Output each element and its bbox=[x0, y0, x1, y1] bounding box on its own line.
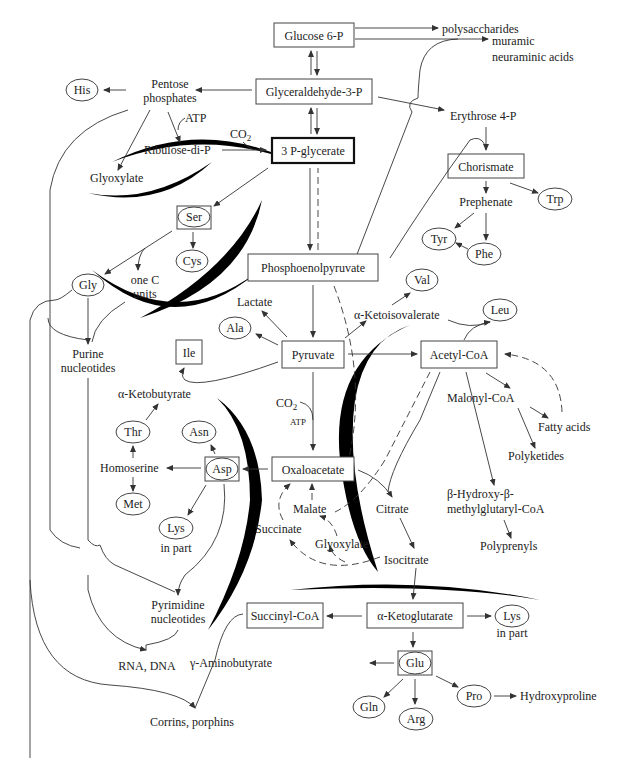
asn-label: Asn bbox=[189, 425, 208, 439]
his-label: His bbox=[74, 83, 91, 97]
citrate-label: Citrate bbox=[376, 502, 409, 516]
node-chorismate: Chorismate bbox=[448, 154, 524, 178]
chorismate-label: Chorismate bbox=[458, 160, 513, 174]
node-gln: Gln bbox=[353, 696, 385, 718]
malonylcoa-label: Malonyl-CoA bbox=[447, 391, 515, 405]
prephenate-label: Prephenate bbox=[459, 195, 512, 209]
node-ala: Ala bbox=[219, 317, 251, 339]
thr-label: Thr bbox=[124, 425, 141, 439]
node-ile: Ile bbox=[176, 340, 202, 364]
node-acetylcoa: Acetyl-CoA bbox=[421, 341, 497, 368]
erythrose-label: Erythrose 4-P bbox=[450, 109, 517, 123]
homoserine-label: Homoserine bbox=[100, 461, 159, 475]
glucose6p-label: Glucose 6-P bbox=[285, 29, 344, 43]
node-ser: Ser bbox=[177, 206, 211, 229]
purine-label: Purine bbox=[72, 347, 103, 361]
leu-label: Leu bbox=[491, 303, 510, 317]
gln-label: Gln bbox=[360, 700, 378, 714]
node-lys2: Lys bbox=[495, 605, 529, 627]
pro-label: Pro bbox=[466, 689, 483, 703]
node-asn: Asn bbox=[182, 421, 216, 443]
arg-label: Arg bbox=[407, 712, 425, 726]
one-c-label: one C bbox=[131, 273, 159, 287]
node-met: Met bbox=[116, 493, 150, 515]
node-cys: Cys bbox=[176, 250, 208, 272]
succinate-label: Succinate bbox=[255, 522, 302, 536]
barriers bbox=[88, 139, 540, 630]
hydroxyproline-label: Hydroxyproline bbox=[520, 689, 597, 703]
lys-in-part-label: in part bbox=[161, 541, 193, 555]
ketoisovalerate-label: α-Ketoisovalerate bbox=[354, 308, 440, 322]
phosphates-label: phosphates bbox=[143, 91, 197, 105]
tyr-label: Tyr bbox=[431, 232, 448, 246]
node-3pglycerate: 3 P-glycerate bbox=[272, 138, 354, 163]
node-glucose6p: Glucose 6-P bbox=[274, 23, 354, 47]
node-g3p: Glyceraldehyde-3-P bbox=[256, 79, 372, 104]
node-arg: Arg bbox=[399, 708, 433, 730]
node-leu: Leu bbox=[483, 299, 517, 321]
gly-label: Gly bbox=[79, 278, 97, 292]
pentose-label: Pentose bbox=[151, 77, 188, 91]
node-thr: Thr bbox=[116, 421, 150, 443]
purine-nucleotides-label: nucleotides bbox=[61, 361, 116, 375]
3pglycerate-label: 3 P-glycerate bbox=[281, 144, 345, 158]
units-label: units bbox=[133, 287, 157, 301]
barrier-crescent bbox=[290, 584, 540, 600]
neuraminic-label: neuraminic acids bbox=[492, 50, 574, 64]
glyoxylate-label: Glyoxylate bbox=[90, 171, 143, 185]
trp-label: Trp bbox=[547, 192, 564, 206]
fattyacids-label: Fatty acids bbox=[538, 420, 591, 434]
ile-label: Ile bbox=[183, 346, 196, 360]
ribulose-label: Ribulose-di-P bbox=[144, 143, 211, 157]
lys-label-2: Lys bbox=[503, 609, 521, 623]
isocitrate-label: Isocitrate bbox=[384, 553, 429, 567]
met-label: Met bbox=[123, 497, 143, 511]
node-succinylcoa: Succinyl-CoA bbox=[247, 603, 323, 628]
ketobutyrate-label: α-Ketobutyrate bbox=[118, 387, 191, 401]
hmg-label-1: β-Hydroxy-β- bbox=[447, 487, 514, 501]
node-glu: Glu bbox=[398, 651, 432, 675]
glyoxylate-label-2: Glyoxylate bbox=[315, 537, 368, 551]
ala-label: Ala bbox=[226, 321, 244, 335]
node-lys1: Lys bbox=[159, 517, 193, 539]
node-pyruvate: Pyruvate bbox=[282, 341, 344, 368]
co2-label-2: CO2 bbox=[276, 396, 297, 412]
node-pro: Pro bbox=[457, 685, 491, 707]
pep-label: Phosphoenolpyruvate bbox=[261, 261, 365, 275]
node-tyr: Tyr bbox=[422, 228, 456, 250]
oxaloacetate-label: Oxaloacetate bbox=[282, 463, 345, 477]
co2-label: CO2 bbox=[230, 127, 251, 143]
pyrimidine-label: Pyrimidine bbox=[151, 598, 204, 612]
gaba-label: γ-Aminobutyrate bbox=[189, 656, 272, 670]
node-trp: Trp bbox=[538, 188, 572, 210]
node-oxaloacetate: Oxaloacetate bbox=[272, 457, 354, 481]
metabolic-pathway-diagram: Glucose 6-P polysaccharides muramic neur… bbox=[0, 0, 623, 758]
node-gly: Gly bbox=[72, 274, 104, 296]
hmg-label-2: methylglutaryl-CoA bbox=[447, 502, 545, 516]
succinylcoa-label: Succinyl-CoA bbox=[251, 609, 320, 623]
ser-label: Ser bbox=[186, 210, 202, 224]
lys-label: Lys bbox=[167, 521, 185, 535]
pyruvate-label: Pyruvate bbox=[292, 348, 335, 362]
node-ketoglutarate: α-Ketoglutarate bbox=[367, 603, 463, 628]
node-phe: Phe bbox=[467, 243, 501, 265]
muramic-label: muramic bbox=[492, 34, 535, 48]
rnadna-label: RNA, DNA bbox=[118, 659, 176, 673]
lys-in-part-label-2: in part bbox=[497, 626, 529, 640]
node-pep: Phosphoenolpyruvate bbox=[248, 254, 378, 281]
g3p-label: Glyceraldehyde-3-P bbox=[266, 85, 363, 99]
node-val: Val bbox=[406, 269, 438, 291]
barrier-crescent bbox=[339, 325, 410, 572]
ketoglutarate-label: α-Ketoglutarate bbox=[377, 609, 453, 623]
corrins-label: Corrins, porphins bbox=[150, 715, 234, 729]
pyrimidine-nucleotides-label: nucleotides bbox=[151, 612, 206, 626]
asp-label: Asp bbox=[212, 462, 231, 476]
atp-label: ATP bbox=[185, 111, 207, 125]
atp-label-2: ATP bbox=[290, 417, 306, 427]
acetylcoa-label: Acetyl-CoA bbox=[430, 348, 489, 362]
lactate-label: Lactate bbox=[237, 295, 272, 309]
phe-label: Phe bbox=[475, 247, 493, 261]
cys-label: Cys bbox=[183, 254, 202, 268]
polyprenyls-label: Polyprenyls bbox=[480, 539, 538, 553]
glu-label: Glu bbox=[406, 656, 424, 670]
